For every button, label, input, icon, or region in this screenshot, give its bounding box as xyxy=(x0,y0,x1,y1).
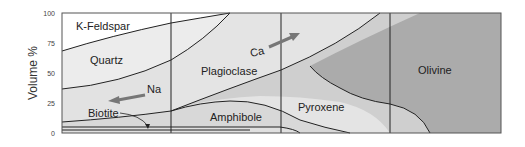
label-quartz: Quartz xyxy=(90,54,123,66)
y-axis-title: Volume % xyxy=(26,46,40,100)
label-biotite: Biotite xyxy=(88,107,119,119)
y-tick-0: 0 xyxy=(51,130,55,137)
y-tick-25: 25 xyxy=(47,100,55,107)
label-k-feldspar: K-Feldspar xyxy=(76,20,130,32)
label-amphibole: Amphibole xyxy=(210,111,262,123)
rock-composition-diagram: 100 75 50 25 0 Volume % K-Feldspar Quart… xyxy=(0,0,525,147)
label-na: Na xyxy=(147,83,162,95)
label-pyroxene: Pyroxene xyxy=(298,101,344,113)
y-tick-100: 100 xyxy=(43,10,55,17)
label-olivine: Olivine xyxy=(418,64,452,76)
y-tick-75: 75 xyxy=(47,40,55,47)
label-plagioclase: Plagioclase xyxy=(201,65,257,77)
y-tick-50: 50 xyxy=(47,70,55,77)
